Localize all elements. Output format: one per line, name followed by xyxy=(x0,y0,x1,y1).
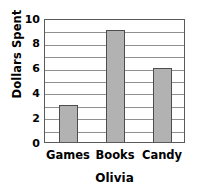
y-axis-tick-label: 8 xyxy=(22,37,40,50)
bars-layer xyxy=(45,20,184,142)
y-axis-tick-label: 10 xyxy=(22,13,40,26)
bar-games xyxy=(59,105,78,142)
plot-area xyxy=(44,19,185,143)
bar-chart: Dollars Spent 0246810 GamesBooksCandy Ol… xyxy=(0,0,202,196)
bar-books xyxy=(106,30,125,142)
bar-candy xyxy=(153,68,172,142)
y-axis-tick-labels: 0246810 xyxy=(22,19,40,143)
x-axis-tick-labels: GamesBooksCandy xyxy=(44,147,185,163)
y-axis-tick-label: 2 xyxy=(22,112,40,125)
y-axis-tick-label: 4 xyxy=(22,87,40,100)
x-axis-title: Olivia xyxy=(44,170,185,186)
y-axis-tick-label: 6 xyxy=(22,62,40,75)
x-axis-tick-label: Candy xyxy=(131,147,193,163)
